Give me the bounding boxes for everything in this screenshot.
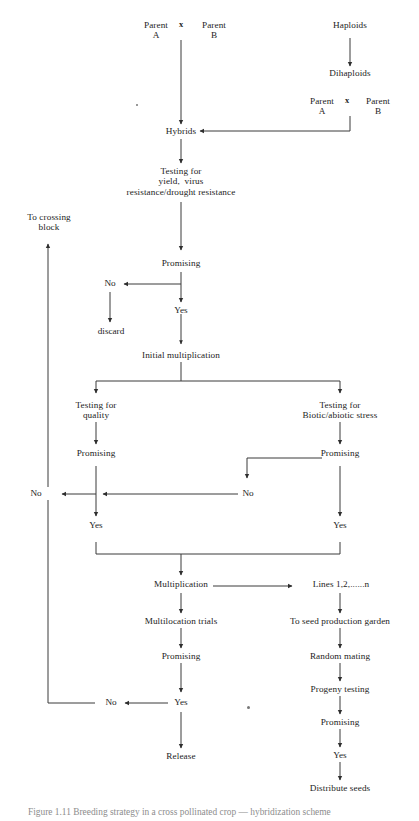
node-discard: discard [87, 326, 135, 336]
label-yes-stress: Yes [326, 520, 354, 530]
label-no-stress-right: No [234, 488, 262, 498]
node-promising-trials: Promising [143, 651, 219, 661]
flowchart-figure: Parent A x Parent B Haploids Dihaploids … [0, 0, 419, 821]
scan-speck [247, 706, 250, 709]
node-promising-initial: Promising [143, 258, 219, 268]
node-testing-for-yield: Testing for yield, virus resistance/drou… [91, 166, 271, 197]
node-testing-for-stress: Testing for Biotic/abiotic stress [270, 400, 410, 421]
node-parent-b-top: Parent B [186, 20, 242, 41]
figure-caption: Figure 1.11 Breeding strategy in a cross… [28, 806, 400, 818]
node-multiplication: Multiplication [131, 579, 231, 589]
node-promising-quality: Promising [58, 448, 134, 458]
node-multilocation-trials: Multilocation trials [119, 616, 243, 626]
node-progeny-testing: Progeny testing [294, 684, 386, 694]
node-random-mating: Random mating [294, 651, 386, 661]
node-distribute-seeds: Distribute seeds [288, 783, 392, 793]
label-yes-progeny: Yes [326, 750, 354, 760]
node-parent-b-dihaploid: Parent B [352, 96, 404, 117]
node-promising-stress: Promising [302, 448, 378, 458]
node-seed-production-garden: To seed production garden [266, 616, 414, 626]
node-haploids: Haploids [310, 20, 390, 30]
label-yes-initial: Yes [167, 305, 195, 315]
node-to-crossing-block: To crossing block [10, 212, 88, 233]
label-yes-trials: Yes [167, 697, 195, 707]
node-hybrids: Hybrids [145, 126, 217, 136]
node-lines-1-2-n: Lines 1,2,......n [293, 579, 389, 589]
label-no-trials: No [97, 697, 125, 707]
node-promising-progeny: Promising [302, 717, 378, 727]
node-dihaploids: Dihaploids [308, 68, 392, 78]
scan-speck [136, 104, 138, 106]
node-testing-for-quality: Testing for quality [52, 400, 140, 421]
label-no-initial: No [96, 278, 124, 288]
label-no-quality-left: No [22, 488, 50, 498]
node-release: Release [151, 751, 211, 761]
label-yes-quality: Yes [82, 520, 110, 530]
node-initial-multiplication: Initial multiplication [111, 350, 251, 360]
